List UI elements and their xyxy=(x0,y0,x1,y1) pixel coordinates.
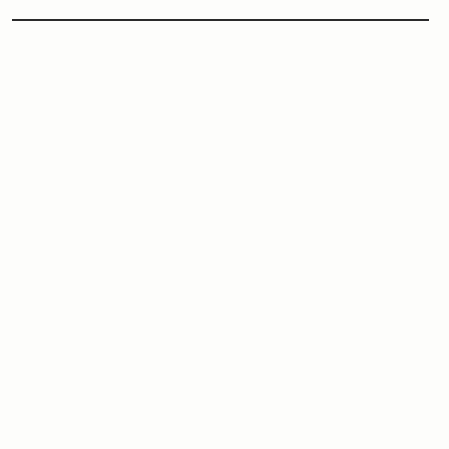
figure-container xyxy=(0,0,449,449)
chart-plot-area xyxy=(0,0,449,449)
bar-group xyxy=(0,0,449,449)
chart-legend xyxy=(0,404,449,438)
